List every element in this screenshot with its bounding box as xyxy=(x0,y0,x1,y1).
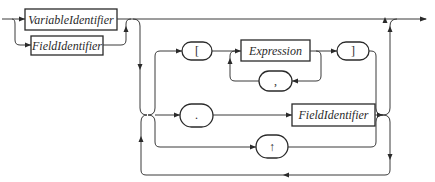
arrow-icon xyxy=(228,58,233,64)
arrow-icon xyxy=(138,64,143,70)
arrow-icon xyxy=(139,136,144,142)
arrow-icon xyxy=(235,49,241,54)
arrow-icon xyxy=(388,154,393,160)
variable-identifier-label: VariableIdentifier xyxy=(28,13,114,27)
arrow-icon xyxy=(176,49,182,54)
arrow-icon xyxy=(25,43,31,48)
expression-label: Expression xyxy=(248,44,302,58)
arrow-icon xyxy=(174,113,180,118)
inner-rail-left-top xyxy=(148,51,160,115)
comma-symbol: , xyxy=(274,74,277,88)
arrow-icon xyxy=(286,113,292,118)
arrow-icon xyxy=(283,173,289,178)
exit-arrow-icon xyxy=(420,17,427,22)
arrow-icon xyxy=(124,26,129,32)
field-identifier-left-label: FieldIdentifier xyxy=(31,39,102,53)
arrow-icon xyxy=(388,26,393,32)
close-bracket-symbol: ] xyxy=(351,44,355,58)
arrow-icon xyxy=(19,17,25,22)
open-bracket-symbol: [ xyxy=(195,44,199,58)
right-down-rail xyxy=(383,115,390,122)
arrow-icon xyxy=(383,17,388,23)
dot-symbol: . xyxy=(195,108,198,122)
syntax-diagram: VariableIdentifier FieldIdentifier [ Exp… xyxy=(0,0,435,182)
up-arrow-symbol: ↑ xyxy=(269,140,275,154)
right-up-rail xyxy=(383,19,397,115)
arrow-icon xyxy=(250,145,256,150)
arrow-icon xyxy=(292,79,298,84)
field-identifier-right-label: FieldIdentifier xyxy=(298,108,369,122)
inner-rail-left-bottom xyxy=(148,115,160,147)
arrow-icon xyxy=(331,49,337,54)
